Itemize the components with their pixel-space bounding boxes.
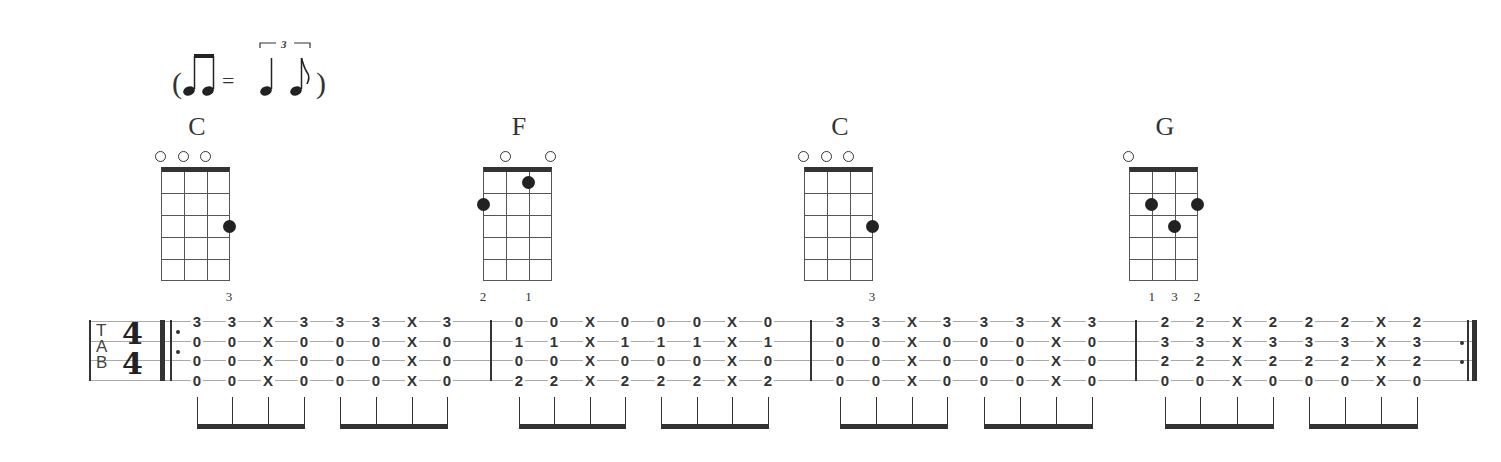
tab-note: 0 — [298, 353, 310, 368]
note-stem — [412, 397, 413, 427]
note-stem — [340, 397, 341, 427]
tab-note: 0 — [1014, 334, 1026, 349]
tab-note: 0 — [370, 334, 382, 349]
tab-note: 1 — [619, 334, 631, 349]
note-stem — [1056, 397, 1057, 427]
svg-text:3: 3 — [280, 40, 287, 50]
tab-note: 0 — [548, 353, 560, 368]
tab-note: 0 — [441, 373, 453, 388]
note-stem — [1273, 397, 1274, 427]
tab-note: 0 — [834, 334, 846, 349]
tab-note: X — [725, 314, 739, 329]
beam — [984, 424, 1093, 429]
tab-clef-b: B — [96, 354, 107, 371]
tab-note: 0 — [978, 334, 990, 349]
note-stem — [1092, 397, 1093, 427]
note-stem — [1020, 397, 1021, 427]
tab-note: 0 — [941, 373, 953, 388]
open-string-icon — [545, 151, 556, 162]
tab-note: 0 — [334, 373, 346, 388]
tab-note: 3 — [1339, 334, 1351, 349]
tab-note: 3 — [226, 314, 238, 329]
note-stem — [447, 397, 448, 427]
tab-note: X — [905, 314, 919, 329]
tab-note: 3 — [1194, 334, 1206, 349]
note-stem — [1165, 397, 1166, 427]
tab-note: 0 — [619, 314, 631, 329]
tab-note: 0 — [762, 353, 774, 368]
tab-note: 3 — [1159, 334, 1171, 349]
finger-number: 2 — [480, 289, 487, 305]
end-repeat-thick-bar — [1472, 320, 1477, 381]
open-string-icon — [200, 151, 211, 162]
tab-note: X — [905, 353, 919, 368]
tab-note: 0 — [548, 314, 560, 329]
beam — [519, 424, 626, 429]
tab-note: X — [1230, 314, 1244, 329]
tab-note: X — [261, 373, 275, 388]
tab-note: 0 — [441, 334, 453, 349]
tab-note: 0 — [513, 314, 525, 329]
tab-note: X — [1230, 334, 1244, 349]
tab-note: 0 — [513, 353, 525, 368]
finger-dot-icon — [223, 220, 236, 233]
open-string-icon — [155, 151, 166, 162]
chord-name: G — [1156, 112, 1175, 142]
tab-note: X — [583, 373, 597, 388]
barline — [810, 320, 812, 381]
tab-note: 3 — [1014, 314, 1026, 329]
time-signature-bottom: 4 — [122, 350, 143, 378]
tab-note: X — [405, 314, 419, 329]
tab-note: 2 — [1303, 353, 1315, 368]
tab-note: 0 — [1014, 373, 1026, 388]
tab-note: 2 — [1303, 314, 1315, 329]
tab-note: 2 — [1411, 353, 1423, 368]
tab-note: 0 — [941, 334, 953, 349]
beam — [340, 424, 448, 429]
tab-note: X — [905, 334, 919, 349]
note-stem — [1417, 397, 1418, 427]
tab-note: 2 — [691, 373, 703, 388]
chord-grid — [1129, 167, 1198, 281]
open-string-icon — [843, 151, 854, 162]
note-stem — [840, 397, 841, 427]
finger-dot-icon — [1191, 198, 1204, 211]
beam — [197, 424, 305, 429]
chord-grid — [161, 167, 230, 281]
tab-note: 0 — [441, 353, 453, 368]
tab-note: X — [905, 373, 919, 388]
open-string-icon — [1123, 151, 1134, 162]
tab-note: 0 — [1159, 373, 1171, 388]
tab-note: X — [1230, 353, 1244, 368]
tab-note: 0 — [834, 373, 846, 388]
tab-note: 0 — [1267, 373, 1279, 388]
tab-note: X — [1374, 314, 1388, 329]
tab-note: 3 — [1303, 334, 1315, 349]
tab-note: 0 — [1339, 373, 1351, 388]
tab-note: X — [1049, 353, 1063, 368]
repeat-start-dot-upper — [176, 330, 180, 334]
swing-notation: ( = 3 ) — [170, 40, 340, 105]
tab-note: X — [583, 353, 597, 368]
finger-number: 3 — [1171, 289, 1178, 305]
tab-note: 2 — [1267, 353, 1279, 368]
tab-note: X — [261, 334, 275, 349]
open-string-icon — [821, 151, 832, 162]
tab-note: 0 — [941, 353, 953, 368]
repeat-start-thick-bar — [160, 320, 165, 381]
tab-note: 3 — [298, 314, 310, 329]
tab-note: 0 — [334, 353, 346, 368]
finger-number: 3 — [226, 289, 233, 305]
note-stem — [768, 397, 769, 427]
start-barline — [89, 320, 91, 381]
tab-note: 0 — [191, 353, 203, 368]
tab-note: 1 — [691, 334, 703, 349]
tab-note: X — [1374, 373, 1388, 388]
note-stem — [876, 397, 877, 427]
tab-note: 0 — [870, 353, 882, 368]
tab-note: 0 — [298, 373, 310, 388]
tab-note: 2 — [1194, 353, 1206, 368]
tab-note: 2 — [1159, 314, 1171, 329]
tab-note: 0 — [226, 334, 238, 349]
tab-note: 0 — [619, 353, 631, 368]
